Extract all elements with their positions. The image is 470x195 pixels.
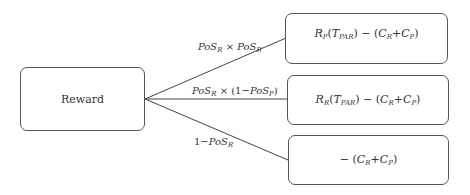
outcome-label-1: RP(TPAR) − (CR+CP) <box>314 27 418 41</box>
outcome-node-1: RP(TPAR) − (CR+CP) <box>285 13 448 64</box>
outcome-node-3: − (CR+CP) <box>288 135 449 185</box>
outcome-node-2: RR(TPAR) − (CR+CP) <box>287 75 449 125</box>
outcome-label-3: − (CR+CP) <box>340 153 397 167</box>
edge-label-3: 1−PoSR <box>194 136 233 149</box>
edge-label-2: PoSR × (1−PoSP) <box>192 85 278 98</box>
outcome-label-2: RR(TPAR) − (CR+CP) <box>316 93 421 107</box>
reward-label: Reward <box>61 93 104 106</box>
edge-3 <box>145 99 288 160</box>
reward-node: Reward <box>20 67 145 131</box>
edge-label-1: PoSR × PoSR <box>198 41 262 54</box>
